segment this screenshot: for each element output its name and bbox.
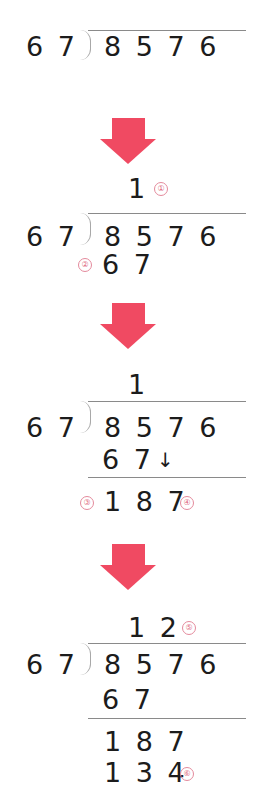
down-arrow-icon bbox=[100, 544, 157, 590]
marker-5: ⑤ bbox=[182, 621, 196, 635]
division-bracket bbox=[80, 643, 91, 675]
divisor: 6 7 bbox=[26, 222, 78, 252]
division-bracket bbox=[80, 213, 91, 245]
divisor: 6 7 bbox=[26, 32, 78, 62]
marker-2: ② bbox=[78, 258, 92, 272]
product: 6 7 bbox=[102, 445, 154, 475]
dividend: 8 5 7 6 bbox=[104, 222, 219, 252]
dividend: 8 5 7 6 bbox=[104, 650, 219, 680]
marker-4: ④ bbox=[180, 496, 194, 510]
division-bar bbox=[88, 401, 246, 402]
quotient: 1 bbox=[128, 174, 148, 204]
division-bracket bbox=[80, 401, 91, 433]
dividend: 8 5 7 6 bbox=[104, 413, 219, 443]
down-arrow-icon bbox=[100, 118, 157, 164]
division-bar bbox=[88, 213, 246, 214]
quotient: 1 bbox=[128, 370, 148, 400]
quotient: 1 2 bbox=[128, 613, 180, 643]
bring-down-arrow-icon: ↓ bbox=[157, 448, 174, 472]
division-bar bbox=[88, 643, 246, 644]
dividend: 8 5 7 6 bbox=[104, 32, 219, 62]
product-2: 1 3 4 bbox=[104, 758, 188, 788]
remainder: 1 8 7 bbox=[104, 727, 188, 757]
remainder: 1 8 7 bbox=[104, 487, 188, 517]
marker-1: ① bbox=[154, 182, 168, 196]
marker-3: ③ bbox=[80, 496, 94, 510]
marker-6: ⑥ bbox=[180, 767, 194, 781]
product: 6 7 bbox=[102, 685, 154, 715]
division-bracket bbox=[80, 30, 91, 60]
product: 6 7 bbox=[102, 250, 154, 280]
divisor: 6 7 bbox=[26, 413, 78, 443]
down-arrow-icon bbox=[100, 303, 157, 349]
subtraction-line bbox=[88, 718, 246, 719]
divisor: 6 7 bbox=[26, 650, 78, 680]
subtraction-line bbox=[88, 477, 246, 478]
